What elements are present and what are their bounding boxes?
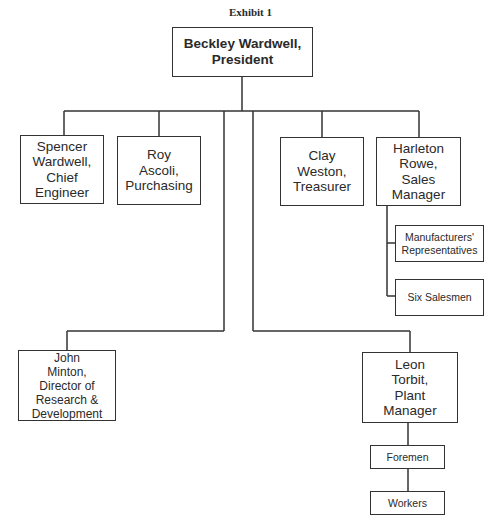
- org-chart: Exhibit 1 Beckley Wardwell, President Sp…: [0, 0, 501, 528]
- node-purchasing: Roy Ascoli, Purchasing: [117, 136, 201, 205]
- node-label: John Minton, Director of Research & Deve…: [32, 351, 103, 421]
- node-foremen: Foremen: [370, 445, 445, 469]
- node-president: Beckley Wardwell, President: [172, 27, 313, 77]
- node-six-salesmen: Six Salesmen: [395, 279, 484, 316]
- node-chief-engineer: Spencer Wardwell, Chief Engineer: [20, 135, 104, 204]
- node-label: Clay Weston, Treasurer: [293, 148, 351, 195]
- node-label: Workers: [388, 497, 427, 510]
- node-label: Harleton Rowe, Sales Manager: [392, 141, 445, 203]
- node-label: Six Salesmen: [407, 291, 471, 304]
- node-label: Roy Ascoli, Purchasing: [125, 147, 193, 194]
- node-label: Spencer Wardwell, Chief Engineer: [33, 139, 92, 201]
- node-label: Manufacturers' Representatives: [402, 231, 478, 256]
- node-treasurer: Clay Weston, Treasurer: [280, 137, 364, 206]
- node-plant-manager: Leon Torbit, Plant Manager: [362, 352, 458, 423]
- node-sales-manager: Harleton Rowe, Sales Manager: [376, 137, 461, 206]
- node-rnd-director: John Minton, Director of Research & Deve…: [18, 350, 116, 421]
- node-label: Beckley Wardwell, President: [184, 36, 301, 68]
- node-label: Leon Torbit, Plant Manager: [383, 357, 436, 419]
- node-label: Foremen: [386, 451, 428, 464]
- node-workers: Workers: [370, 491, 445, 515]
- node-manufacturers-representatives: Manufacturers' Representatives: [395, 225, 484, 262]
- exhibit-title: Exhibit 1: [0, 6, 501, 18]
